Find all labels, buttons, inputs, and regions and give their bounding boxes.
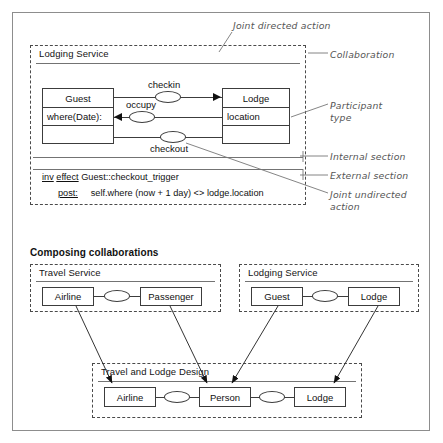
participant-type-guest: Guest where(Date): [42,88,114,144]
participant-compartment-lodge-empty [223,126,289,144]
action-label-checkout: checkout [150,143,188,154]
arrowhead-occupy-left [114,113,122,121]
action-label-occupy: occupy [126,99,156,110]
participant-person-composite: Person [199,387,251,407]
annotation-external-section: External section [330,170,408,182]
action-ellipse-occupy [129,111,155,123]
participant-attribute-lodge-location: location [223,108,289,126]
figure-canvas: Joint directed action Lodging Service Gu… [0,0,443,443]
constraint-target: Guest::checkout_trigger [81,172,179,182]
constraint-keyword-effect: effect [56,172,78,182]
arrowhead-checkin-right [213,93,221,101]
action-label-checkin: checkin [148,79,180,90]
action-ellipse-checkout [160,131,186,143]
collaboration-title-travel-service: Travel Service [39,267,101,278]
participant-guest-lodging: Guest [251,287,303,306]
participant-airline-travel: Airline [42,287,94,306]
participant-name-guest: Guest [43,89,113,108]
action-ellipse-lodging-composing [312,290,338,302]
annotation-collaboration: Collaboration [330,49,395,61]
collaboration-title-travel-and-lodge-design: Travel and Lodge Design [101,366,209,377]
action-ellipse-composite-right [259,391,285,403]
constraint-clause-body: self.where (now + 1 day) <> lodge.locati… [91,188,264,198]
collaboration-name-rule-lodging-composing [245,281,413,282]
collaboration-name-rule-composite [98,381,356,382]
internal-section-divider [33,157,303,158]
participant-airline-composite: Airline [104,387,156,407]
action-ellipse-travel [104,290,130,302]
action-ellipse-composite-left [164,391,190,403]
constraint-clause-keyword: post: [58,188,78,198]
collaboration-name-rule-travel-service [36,281,215,282]
constraint-post-line: post: self.where (now + 1 day) <> lodge.… [58,188,264,198]
constraint-keyword-inv: inv [42,172,54,182]
collaboration-name-rule [36,63,300,64]
constraint-invariant-line: inv effect Guest::checkout_trigger [42,172,179,182]
annotation-internal-section: Internal section [330,151,406,163]
collaboration-title-lodging-service-composing: Lodging Service [248,267,318,278]
participant-attribute-guest-where: where(Date): [43,108,113,126]
participant-lodge-composite: Lodge [294,387,346,407]
collaboration-title: Lodging Service [39,48,109,59]
section-heading-composing-collaborations: Composing collaborations [30,247,159,258]
participant-name-lodge: Lodge [223,89,289,108]
annotation-joint-directed-action: Joint directed action [233,20,331,32]
action-ellipse-checkin [155,91,181,103]
participant-passenger-travel: Passenger [140,287,202,306]
annotation-participant-type: Participant type [330,100,382,124]
external-section-divider [33,169,303,170]
participant-compartment-guest-empty [43,126,113,144]
participant-lodge-lodging: Lodge [348,287,400,306]
annotation-joint-undirected-action: Joint undirected action [330,189,407,213]
participant-type-lodge: Lodge location [222,88,290,144]
